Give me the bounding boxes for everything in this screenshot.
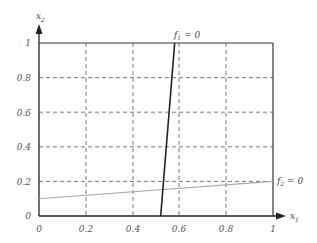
chart: 0 0.2 0.4 0.6 0.8 1 0 0.2 0.4 0.6 0.8 1 … — [0, 0, 317, 243]
y-tick: 0 — [25, 211, 31, 221]
x-tick: 0.6 — [172, 224, 187, 234]
f1-line — [161, 43, 175, 216]
f2-line — [39, 181, 273, 198]
y-tick: 0.6 — [17, 108, 32, 118]
f1-label: f1 = 0 — [173, 30, 200, 41]
y-axis-arrow-icon — [36, 24, 43, 34]
f2-label: f2 = 0 — [276, 176, 303, 187]
y-tick: 1 — [25, 38, 31, 48]
y-tick: 0.4 — [17, 142, 32, 152]
x-tick: 1 — [270, 224, 276, 234]
axes — [39, 31, 278, 216]
x-axis-arrow-icon — [276, 213, 286, 220]
y-tick: 0.2 — [17, 177, 32, 187]
x-tick-labels: 0 0.2 0.4 0.6 0.8 1 — [36, 224, 276, 234]
x-axis-label: x1 — [290, 211, 299, 223]
x-tick: 0.8 — [219, 224, 234, 234]
y-tick: 0.8 — [17, 73, 32, 83]
y-tick-labels: 0 0.2 0.4 0.6 0.8 1 — [17, 38, 32, 221]
x-tick: 0 — [36, 224, 42, 234]
x-tick: 0.4 — [126, 224, 141, 234]
x-tick: 0.2 — [79, 224, 94, 234]
y-axis-label: x2 — [36, 11, 45, 23]
